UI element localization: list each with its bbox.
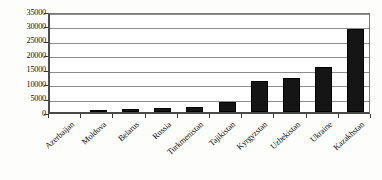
x-axis-tick-mark [80,114,81,118]
x-axis-tick-mark [112,114,113,118]
x-axis-tick-mark [177,114,178,118]
x-axis-category-label: Azerbaijan [44,120,77,151]
x-axis-category-label: Ukraine [308,120,334,144]
x-axis-tick-mark [145,114,146,118]
y-axis-tick-label: 35000 [4,9,46,17]
x-axis-tick-mark [209,114,210,118]
y-axis-tick-label: 10000 [4,81,46,89]
gridline [50,43,369,44]
bar [154,108,171,112]
bar [347,29,364,112]
bar [283,78,300,112]
gridline [50,57,369,58]
x-axis-category-label: Kyrgyzstan [235,120,269,152]
x-axis-tick-mark [306,114,307,118]
x-axis-tick-mark [370,114,371,118]
y-axis-tick-label: 20000 [4,52,46,60]
gridline [50,28,369,29]
x-axis-category-label: Kazakhstan [332,120,366,152]
bar [219,102,236,112]
x-axis-category-label: Uzbekistan [268,120,301,151]
bar-chart: 05000100001500020000250003000035000 Azer… [0,0,382,180]
bar [315,67,332,112]
gridline [50,14,369,15]
x-axis-category-label: Moldova [80,120,108,146]
plot-area [48,13,370,114]
bar [251,81,268,112]
x-axis-category-label: Russia [151,120,173,141]
bar [122,109,139,112]
bar [186,107,203,112]
y-axis-tick-label: 5000 [4,95,46,103]
y-axis-tick-label: 30000 [4,23,46,31]
x-axis-tick-mark [241,114,242,118]
x-axis-category-label: Tajikistan [207,120,237,148]
x-axis-tick-mark [273,114,274,118]
y-axis-tick-label: 25000 [4,37,46,45]
y-axis-tick-label: 15000 [4,66,46,74]
x-axis-category-label: Belarus [116,120,141,143]
x-axis-tick-mark [338,114,339,118]
y-axis-tick-label: 0 [4,110,46,118]
bar [90,110,107,112]
x-axis-tick-mark [48,114,49,118]
